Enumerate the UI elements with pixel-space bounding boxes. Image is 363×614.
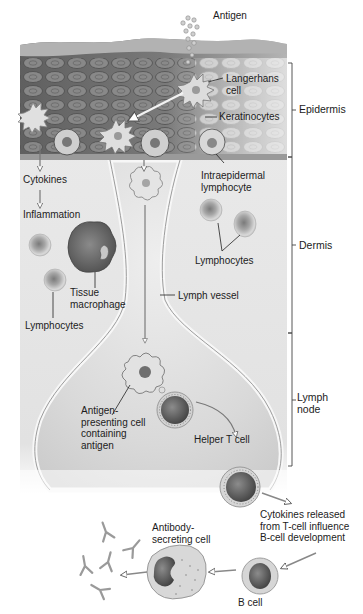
- label-lymphocytes-left: Lymphocytes: [25, 320, 84, 332]
- dermis-lymphocyte-2: [44, 269, 66, 291]
- dermis-lymphocyte-1: [29, 234, 51, 256]
- antigen-cell-in-vessel: [129, 166, 162, 200]
- label-lymphocytes-right: Lymphocytes: [195, 255, 254, 267]
- label-lymph-node: Lymph node: [297, 392, 328, 415]
- label-langerhans-cell: Langerhans cell: [226, 73, 279, 96]
- tissue-macrophage-icon: [68, 222, 116, 273]
- lymph-node-bracket: [288, 333, 292, 466]
- activated-t-cell-icon: [220, 467, 260, 507]
- b-cell-arrow: [282, 553, 316, 568]
- label-dermis: Dermis: [299, 240, 332, 252]
- label-intraepidermal-lymphocyte: Intraepidermal lymphocyte: [201, 170, 265, 193]
- region-brackets: [288, 63, 296, 466]
- epidermis-bracket: [288, 63, 292, 157]
- b-cell-icon: [242, 558, 278, 594]
- label-epidermis: Epidermis: [299, 104, 346, 116]
- label-helper-t-cell: Helper T cell: [194, 434, 250, 446]
- antibody-icons: [77, 521, 144, 600]
- secretion-arrow: [122, 572, 147, 575]
- dermis-lymphocyte-3: [200, 199, 222, 221]
- label-cytokines-released: Cytokines released from T-cell influence…: [260, 509, 349, 544]
- dermis-lymphocyte-4: [234, 211, 256, 237]
- label-antigen: Antigen: [213, 10, 247, 22]
- label-keratinocytes: Keratinocytes: [219, 111, 280, 123]
- label-tissue-macrophage: Tissue macrophage: [70, 287, 126, 310]
- label-lymph-vessel: Lymph vessel: [178, 290, 239, 302]
- dermis-bracket: [288, 157, 292, 333]
- antibody-secreting-cell-icon: [147, 545, 206, 599]
- label-inflammation: Inflammation: [23, 209, 80, 221]
- plasma-arrow: [210, 570, 236, 572]
- label-antigen-presenting-cell: Antigen- presenting cell containing anti…: [81, 405, 145, 451]
- label-cytokines: Cytokines: [23, 174, 67, 186]
- label-b-cell: B cell: [238, 597, 262, 609]
- helper-t-cell-icon: [157, 392, 193, 428]
- label-antibody-secreting-cell: Antibody- secreting cell: [152, 522, 210, 545]
